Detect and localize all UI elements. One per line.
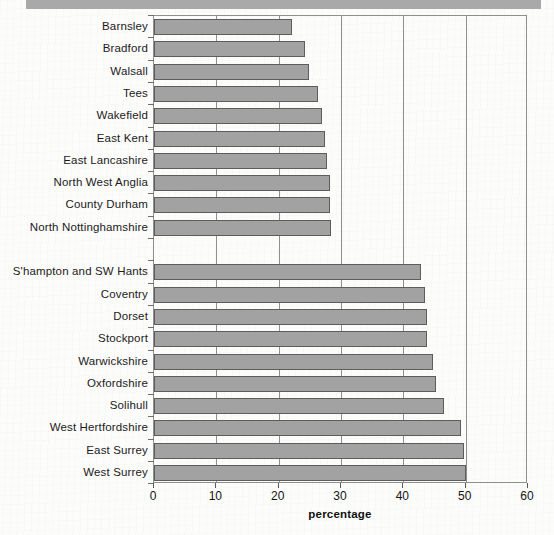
x-tick-10 <box>215 483 216 488</box>
bar-bradford <box>154 41 305 57</box>
bar-s-hampton-and-sw-hants <box>154 264 421 280</box>
bar-row <box>154 465 526 481</box>
top-gray-band <box>26 0 541 9</box>
x-tick-label-10: 10 <box>195 489 235 503</box>
bar-east-kent <box>154 131 325 147</box>
y-tick <box>148 260 154 261</box>
bar-row <box>154 354 526 370</box>
bar-east-surrey <box>154 443 464 459</box>
y-tick <box>148 60 154 61</box>
bar-row <box>154 153 526 169</box>
x-tick-30 <box>340 483 341 488</box>
y-label: Warwickshire <box>78 355 148 367</box>
bar-row <box>154 398 526 414</box>
y-tick <box>148 127 154 128</box>
y-tick <box>148 193 154 194</box>
x-tick-label-0: 0 <box>133 489 173 503</box>
x-tick-50 <box>465 483 466 488</box>
x-tick-label-60: 60 <box>507 489 547 503</box>
y-label: Barnsley <box>102 20 148 32</box>
y-tick <box>148 216 154 217</box>
bar-row <box>154 331 526 347</box>
y-label: Stockport <box>98 332 148 344</box>
plot-frame <box>153 15 527 483</box>
y-tick <box>148 37 154 38</box>
y-label: East Lancashire <box>63 154 148 166</box>
y-tick <box>148 82 154 83</box>
y-tick <box>148 372 154 373</box>
bar-west-hertfordshire <box>154 420 461 436</box>
bar-row <box>154 108 526 124</box>
bar-row <box>154 376 526 392</box>
chart-page: BarnsleyBradfordWalsallTeesWakefieldEast… <box>0 0 554 535</box>
y-label: North West Anglia <box>54 176 148 188</box>
y-tick <box>148 283 154 284</box>
y-tick <box>148 416 154 417</box>
y-tick <box>148 394 154 395</box>
bar-row <box>154 197 526 213</box>
x-tick-20 <box>278 483 279 488</box>
y-label: Wakefield <box>97 109 148 121</box>
y-tick <box>148 15 154 16</box>
bar-oxfordshire <box>154 376 436 392</box>
y-label: Tees <box>123 87 148 99</box>
bar-row <box>154 264 526 280</box>
y-label: Dorset <box>113 310 148 322</box>
y-label: Bradford <box>103 42 148 54</box>
bar-row <box>154 64 526 80</box>
y-label: North Nottinghamshire <box>30 221 148 233</box>
x-tick-40 <box>402 483 403 488</box>
x-tick-label-20: 20 <box>258 489 298 503</box>
bar-coventry <box>154 287 425 303</box>
bar-warwickshire <box>154 354 433 370</box>
x-axis-title: percentage <box>153 508 527 520</box>
bar-barnsley <box>154 19 292 35</box>
bar-walsall <box>154 64 309 80</box>
bar-county-durham <box>154 197 330 213</box>
y-tick <box>148 238 154 239</box>
y-tick <box>148 149 154 150</box>
y-tick <box>148 104 154 105</box>
bar-tees <box>154 86 318 102</box>
x-tick-label-40: 40 <box>382 489 422 503</box>
x-tick-0 <box>153 483 154 488</box>
bar-north-west-anglia <box>154 175 330 191</box>
y-label: West Hertfordshire <box>50 421 148 433</box>
x-tick-60 <box>527 483 528 488</box>
bar-stockport <box>154 331 427 347</box>
bar-solihull <box>154 398 444 414</box>
y-label: East Kent <box>97 132 148 144</box>
y-tick <box>148 305 154 306</box>
bar-row <box>154 443 526 459</box>
y-tick <box>148 350 154 351</box>
y-tick <box>148 439 154 440</box>
bar-row <box>154 309 526 325</box>
y-label: Walsall <box>110 65 148 77</box>
y-tick <box>148 327 154 328</box>
y-label: East Surrey <box>86 444 148 456</box>
x-tick-label-50: 50 <box>445 489 485 503</box>
y-label: S'hampton and SW Hants <box>13 265 148 277</box>
y-tick <box>148 461 154 462</box>
bar-row <box>154 86 526 102</box>
bar-row <box>154 420 526 436</box>
y-tick <box>148 171 154 172</box>
y-label: County Durham <box>66 198 148 210</box>
bar-row <box>154 220 526 236</box>
bar-row <box>154 287 526 303</box>
bar-row <box>154 41 526 57</box>
y-label: Oxfordshire <box>87 377 148 389</box>
x-tick-label-30: 30 <box>320 489 360 503</box>
bar-north-nottinghamshire <box>154 220 331 236</box>
bar-row <box>154 19 526 35</box>
bar-west-surrey <box>154 465 466 481</box>
bar-dorset <box>154 309 427 325</box>
bar-east-lancashire <box>154 153 327 169</box>
bar-row <box>154 175 526 191</box>
y-label: Solihull <box>110 399 148 411</box>
bar-wakefield <box>154 108 322 124</box>
y-label: Coventry <box>101 288 148 300</box>
bar-row <box>154 131 526 147</box>
y-label: West Surrey <box>83 466 148 478</box>
